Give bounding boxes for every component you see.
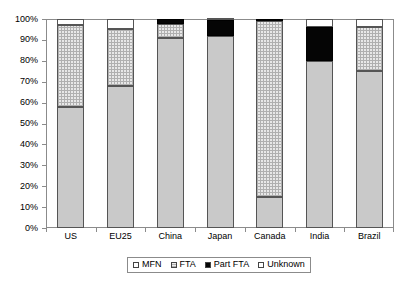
x-axis-tick-mark [46, 228, 47, 232]
y-axis-tick-label: 70% [20, 77, 38, 86]
bar-segment-canada-part-fta [256, 19, 283, 21]
y-axis-tick-label: 30% [20, 161, 38, 170]
bar-segment-brazil-unknown [356, 19, 383, 27]
legend-swatch-unknown-icon [258, 262, 264, 268]
bar-segment-india-part-fta [306, 27, 333, 60]
x-axis-tick-mark [393, 228, 394, 232]
y-axis-tick-label: 0% [25, 224, 38, 233]
x-axis-tick-mark [344, 228, 345, 232]
y-axis-tick-label: 60% [20, 98, 38, 107]
bar-segment-japan-unknown [207, 18, 234, 20]
x-axis-label-us: US [46, 231, 96, 242]
bar-china [157, 19, 184, 228]
x-axis: USEU25ChinaJapanCanadaIndiaBrazil [46, 231, 394, 247]
x-axis-tick-mark [96, 228, 97, 232]
bar-segment-china-mfn [157, 38, 184, 228]
bar-segment-japan-mfn [207, 36, 234, 228]
legend-item-mfn: MFN [133, 260, 162, 269]
bar-segment-china-part-fta [157, 19, 184, 24]
bar-segment-canada-fta [256, 21, 283, 197]
legend-label: Part FTA [214, 260, 249, 269]
bar-india [306, 19, 333, 228]
legend-item-partfta: Part FTA [205, 260, 249, 269]
bar-segment-eu25-unknown [107, 19, 134, 29]
bar-segment-eu25-fta [107, 29, 134, 85]
x-axis-tick-mark [295, 228, 296, 232]
y-axis-tick-label: 100% [15, 15, 38, 24]
legend-label: MFN [142, 260, 162, 269]
bar-segment-brazil-fta [356, 27, 383, 71]
y-axis-tick-label: 50% [20, 119, 38, 128]
bar-segment-canada-mfn [256, 197, 283, 228]
bar-canada [256, 19, 283, 228]
bar-segment-india-mfn [306, 61, 333, 228]
x-axis-tick-mark [145, 228, 146, 232]
y-axis: 0%10%20%30%40%50%60%70%80%90%100% [0, 0, 46, 284]
chart-legend: MFNFTAPart FTAUnknown [127, 257, 311, 273]
x-axis-tick-mark [195, 228, 196, 232]
y-axis-tick-label: 10% [20, 203, 38, 212]
bar-eu25 [107, 19, 134, 228]
legend-label: FTA [180, 260, 196, 269]
bar-segment-india-unknown [306, 19, 333, 27]
y-axis-tick-label: 20% [20, 182, 38, 191]
x-axis-label-brazil: Brazil [344, 231, 394, 242]
legend-swatch-mfn-icon [133, 262, 139, 268]
bar-segment-us-fta [57, 25, 84, 107]
stacked-bar-chart: 0%10%20%30%40%50%60%70%80%90%100% USEU25… [0, 0, 418, 284]
x-axis-label-eu25: EU25 [96, 231, 146, 242]
x-axis-label-china: China [145, 231, 195, 242]
bar-segment-eu25-mfn [107, 86, 134, 228]
bar-segment-china-fta [157, 24, 184, 38]
legend-swatch-partfta-icon [205, 262, 211, 268]
x-axis-tick-mark [245, 228, 246, 232]
legend-label: Unknown [267, 260, 305, 269]
x-axis-label-japan: Japan [195, 231, 245, 242]
legend-swatch-fta-icon [171, 262, 177, 268]
y-axis-tick-label: 80% [20, 56, 38, 65]
bar-segment-brazil-mfn [356, 71, 383, 228]
bar-segment-us-mfn [57, 107, 84, 228]
x-axis-label-india: India [295, 231, 345, 242]
bar-segment-japan-part-fta [207, 20, 234, 36]
bar-us [57, 19, 84, 228]
legend-item-fta: FTA [171, 260, 196, 269]
legend-item-unknown: Unknown [258, 260, 305, 269]
y-axis-tick-label: 40% [20, 140, 38, 149]
bar-japan [207, 19, 234, 228]
y-axis-tick-label: 90% [20, 35, 38, 44]
x-axis-label-canada: Canada [245, 231, 295, 242]
bar-segment-us-unknown [57, 19, 84, 25]
bar-brazil [356, 19, 383, 228]
